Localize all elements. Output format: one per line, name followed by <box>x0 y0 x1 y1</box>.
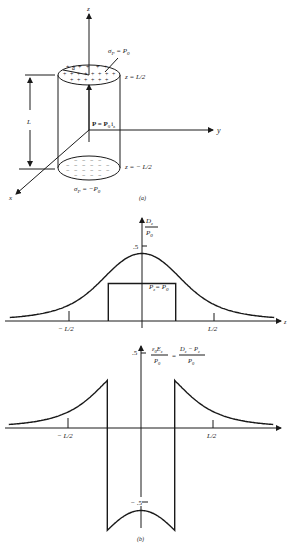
graph1-ylabel-denominator: P0 <box>145 229 153 238</box>
bottom-charge-label: σP = −P0 <box>74 185 101 194</box>
x-axis-label: x <box>8 194 13 202</box>
graph1-ytick-label-0.5: .5 <box>133 243 139 251</box>
graph1-annotation: Pz= P0 <box>148 283 169 292</box>
top-plane-label: z = L/2 <box>124 73 146 81</box>
z-axis-label: z <box>86 5 90 13</box>
graph-electric-field: .5 − .5 ε0Ez P0 = Dz − Pz P0 − L/2 L/2 (… <box>5 345 281 543</box>
graph1-xtick-label-neg: − L/2 <box>58 325 74 333</box>
part-b-caption: (b) <box>137 536 144 543</box>
graph2-xtick-label-neg: − L/2 <box>57 432 73 440</box>
graph2-ylabel-left-denominator: P0 <box>153 357 161 366</box>
top-charge-label: σP = P0 <box>108 47 130 56</box>
graph-displacement: z Dz P0 .5 − L/2 L/2 Pz= P0 <box>5 217 287 333</box>
graph2-ytick-label-0.5: .5 <box>132 349 138 357</box>
length-label: L <box>26 118 31 126</box>
graph2-ylabel-right-numerator: Dz − Pz <box>179 345 200 354</box>
y-axis-label: y <box>216 126 221 135</box>
graph2-ylabel-right-denominator: P0 <box>187 357 195 366</box>
bottom-plane-label: z = − L/2 <box>124 163 152 171</box>
graph1-z-label: z <box>283 319 287 325</box>
part-a-cylinder-diagram: z y x a ++++++++++++++++++++ −−−−−−−−−−−… <box>8 5 221 202</box>
figure-canvas: z y x a ++++++++++++++++++++ −−−−−−−−−−−… <box>0 0 289 547</box>
polarization-label: P = P0iz <box>92 120 116 129</box>
graph2-xtick-label-pos: L/2 <box>206 432 217 440</box>
part-a-caption: (a) <box>139 195 146 202</box>
graph1-ylabel-numerator: Dz <box>145 217 153 226</box>
graph2-ylabel-equals: = <box>172 352 176 360</box>
graph1-xtick-label-pos: L/2 <box>207 325 218 333</box>
graph2-ytick-label-neg0.5: − .5 <box>131 499 142 507</box>
graph2-ylabel-left-numerator: ε0Ez <box>152 345 163 354</box>
